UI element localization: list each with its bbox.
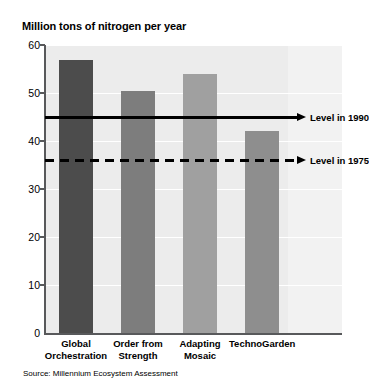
- arrow-right-icon: [297, 113, 306, 121]
- y-axis-tick-label: 30: [6, 183, 40, 195]
- x-axis-category-label: AdaptingMosaic: [167, 338, 233, 361]
- chart-title: Million tons of nitrogen per year: [22, 20, 186, 32]
- bar: [121, 91, 155, 333]
- x-axis-line: [44, 333, 342, 335]
- y-axis-tick-label: 60: [6, 39, 40, 51]
- x-axis-category-label-line: Orchestration: [43, 350, 109, 362]
- bar: [59, 60, 93, 333]
- x-axis-category-label: Order fromStrength: [105, 338, 171, 361]
- y-axis-tick-label: 20: [6, 231, 40, 243]
- reference-line-stroke: [45, 159, 297, 162]
- y-axis-tick-label: 50: [6, 87, 40, 99]
- reference-line-label: Level in 1990: [310, 112, 369, 123]
- source-note: Source: Millennium Ecosystem Assessment: [23, 369, 178, 378]
- x-axis-category-label: GlobalOrchestration: [43, 338, 109, 361]
- bar: [183, 74, 217, 333]
- bar-series: [45, 45, 342, 333]
- arrow-right-icon: [297, 156, 306, 164]
- x-axis-category-label-line: Order from: [105, 338, 171, 350]
- x-axis-category-label-line: TechnoGarden: [229, 338, 295, 350]
- x-axis-category-label-line: Adapting: [167, 338, 233, 350]
- x-axis-category-label-line: Mosaic: [167, 350, 233, 362]
- reference-line-stroke: [45, 116, 297, 119]
- x-axis-category-label-line: Global: [43, 338, 109, 350]
- x-axis-category-label: TechnoGarden: [229, 338, 295, 350]
- y-axis-tick-label: 0: [6, 327, 40, 339]
- reference-line-label: Level in 1975: [310, 155, 369, 166]
- y-axis-tick-labels: 0102030405060: [0, 0, 40, 384]
- y-axis-tick-label: 40: [6, 135, 40, 147]
- y-axis-tick-label: 10: [6, 279, 40, 291]
- x-axis-category-labels: GlobalOrchestrationOrder fromStrengthAda…: [45, 338, 342, 372]
- x-axis-category-label-line: Strength: [105, 350, 171, 362]
